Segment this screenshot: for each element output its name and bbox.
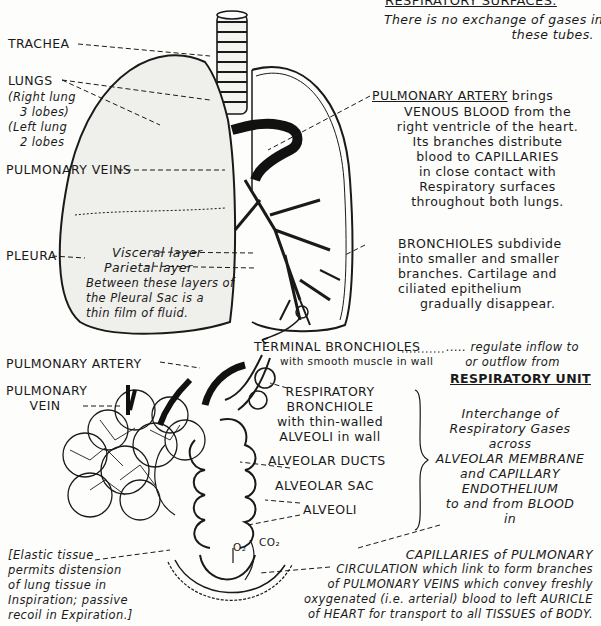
respiratory-unit-title: RESPIRATORY UNIT (450, 371, 591, 386)
lungs-note: (Right lung 3 lobes) (Left lung 2 lobes (8, 90, 76, 150)
lungs-label: LUNGS (8, 73, 52, 88)
header-title: RESPIRATORY SURFACES. (385, 0, 557, 8)
pulmonary-vein-label: PULMONARY VEIN (6, 383, 84, 413)
terminal-bronchioles-label: TERMINAL BRONCHIOLES (254, 339, 420, 354)
alveolar-sac-label: ALVEOLAR SAC (275, 478, 374, 493)
pleura-note: Between these layers of the Pleural Sac … (86, 276, 234, 321)
pleura-label: PLEURA (6, 248, 57, 263)
terminal-bronchioles-sub: with smooth muscle in wall (280, 354, 433, 369)
bronchioles-note: BRONCHIOLES subdivide into smaller and s… (398, 236, 562, 311)
pulmonary-veins-label: PULMONARY VEINS (6, 162, 131, 177)
alveolar-clusters-icon (63, 390, 205, 520)
trachea-label: TRACHEA (8, 36, 70, 51)
elastic-tissue-note: [Elastic tissue permits distension of lu… (8, 548, 133, 623)
regulate-note: ..... regulate inflow to or outflow from (430, 340, 595, 370)
capillaries-note: CAPILLARIES of PULMONARY CIRCULATION whi… (225, 547, 593, 622)
pulmonary-artery-note-title: PULMONARY ARTERY brings (372, 88, 553, 103)
left-lung-icon (252, 67, 352, 331)
respiratory-bronchiole-label: RESPIRATORY BRONCHIOLE with thin-walled … (270, 384, 390, 444)
interchange-note: Interchange of Respiratory Gases across … (425, 406, 595, 526)
pulmonary-artery-label: PULMONARY ARTERY (6, 356, 141, 371)
pulmonary-artery-note: VENOUS BLOOD from the right ventricle of… (375, 104, 600, 209)
visceral-layer-label: Visceral layer (112, 245, 202, 260)
alveoli-label: ALVEOLI (303, 502, 357, 517)
header-note: There is no exchange of gases in these t… (384, 12, 594, 42)
alveolar-ducts-label: ALVEOLAR DUCTS (268, 453, 386, 468)
parietal-layer-label: Parietal layer (104, 260, 192, 275)
